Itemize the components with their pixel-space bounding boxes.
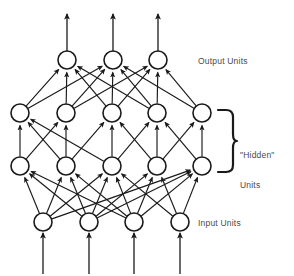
- unit-node-hidden1-3: [148, 157, 166, 175]
- connection-edge: [25, 177, 40, 213]
- connection-edge: [157, 72, 158, 103]
- connection-edge: [118, 122, 149, 158]
- unit-node-hidden2-3: [148, 104, 166, 122]
- connection-edge: [183, 178, 197, 214]
- unit-node-input-2: [125, 213, 143, 231]
- unit-node-hidden2-2: [103, 104, 121, 122]
- connection-edge: [165, 122, 196, 158]
- connection-edge: [31, 171, 125, 217]
- hidden-units-brace: [218, 110, 237, 172]
- unit-node-input-0: [34, 213, 52, 231]
- unit-node-hidden2-1: [57, 104, 75, 122]
- hidden-units-label-line1: "Hidden": [240, 150, 275, 160]
- brace-path: [218, 110, 237, 172]
- unit-node-hidden1-4: [193, 157, 211, 175]
- input-units-label: Input Units: [198, 218, 241, 228]
- connection-edges: [20, 66, 202, 219]
- connection-edge: [28, 122, 60, 158]
- connection-edge: [112, 72, 113, 103]
- connection-edge: [120, 122, 151, 158]
- connection-edge: [26, 122, 58, 158]
- connection-edge: [28, 66, 102, 108]
- hidden-units-label: "Hidden" Units: [240, 130, 275, 210]
- unit-node-hidden1-2: [103, 157, 121, 175]
- connection-edge: [72, 122, 104, 158]
- unit-node-hidden1-1: [57, 157, 75, 175]
- unit-node-input-1: [80, 213, 98, 231]
- connection-edge: [118, 69, 150, 105]
- connection-edge: [163, 122, 194, 158]
- connection-edge: [71, 177, 86, 213]
- unit-node-input-3: [171, 213, 189, 231]
- figure-canvas: Output Units "Hidden" Units Input Units: [0, 0, 294, 276]
- output-units-label: Output Units: [198, 56, 248, 66]
- connection-edge: [138, 177, 153, 213]
- connection-edge: [96, 174, 147, 216]
- unit-node-output-1: [104, 51, 122, 69]
- connection-edge: [66, 72, 67, 103]
- unit-node-hidden2-0: [11, 104, 29, 122]
- unit-node-output-0: [58, 51, 76, 69]
- unit-node-output-2: [149, 51, 167, 69]
- unit-node-hidden2-4: [193, 104, 211, 122]
- connection-edge: [75, 69, 106, 105]
- hidden-units-label-line2: Units: [240, 180, 275, 190]
- unit-node-hidden1-0: [11, 157, 29, 175]
